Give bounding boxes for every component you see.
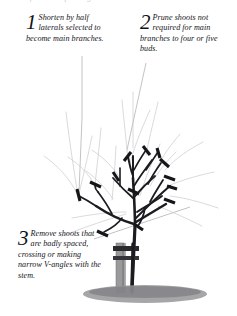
cut-stub xyxy=(77,189,80,201)
caption-text-2: Prune shoots not required for main branc… xyxy=(140,13,232,55)
caption-text-1: Shorten by half laterals selected to bec… xyxy=(26,13,112,44)
tree-stake-shadow xyxy=(122,243,126,293)
caption-step-2: 2 Prune shoots not required for main bra… xyxy=(140,13,232,55)
cut-stub xyxy=(157,148,160,158)
cut-stub xyxy=(128,189,139,194)
leader-line-2 xyxy=(127,63,146,150)
cut-stub xyxy=(164,199,175,203)
cut-stub xyxy=(113,172,119,181)
caption-number-1: 1 xyxy=(26,14,37,31)
soil-mound xyxy=(83,285,207,303)
caption-text-3: Remove shoots that are badly spaced, cro… xyxy=(18,229,104,281)
tree-tie-lower xyxy=(113,256,139,260)
cut-stub xyxy=(134,224,143,230)
cropped-header-text: formative pruning xyxy=(30,0,150,2)
leader-line-1 xyxy=(79,56,82,193)
cut-stub xyxy=(164,176,175,180)
cut-stub xyxy=(143,146,150,155)
caption-number-3: 3 xyxy=(18,230,29,247)
pruning-cut-stubs xyxy=(77,146,177,236)
leader-lines xyxy=(79,56,190,239)
cut-stub xyxy=(167,186,177,189)
soil-mound-shade xyxy=(89,286,201,298)
cut-stub xyxy=(124,152,131,161)
pruning-diagram-page: formative pruning xyxy=(0,0,237,316)
cut-stub xyxy=(90,182,101,187)
tree-tie-upper xyxy=(113,246,139,251)
removed-growth xyxy=(44,92,218,236)
caption-step-1: 1 Shorten by half laterals selected to b… xyxy=(26,13,112,44)
tree-stake xyxy=(116,243,124,293)
cut-stub xyxy=(160,159,169,167)
caption-step-3: 3 Remove shoots that are badly spaced, c… xyxy=(18,229,104,281)
caption-number-2: 2 xyxy=(140,14,151,31)
leader-line-3 xyxy=(94,207,190,239)
